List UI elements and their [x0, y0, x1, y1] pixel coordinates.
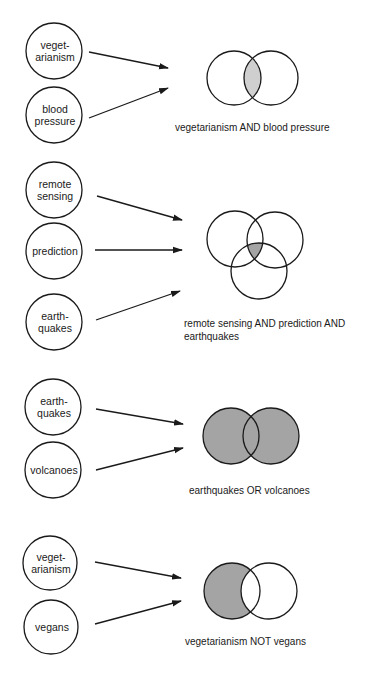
search-term-bubble: bloodpressure: [26, 87, 82, 143]
venn-group-or-2: earth-quakesvolcanoesearthquakes OR volc…: [25, 379, 310, 498]
venn-circle: [247, 212, 303, 268]
term-label: veget-: [40, 39, 70, 51]
venn-group-and-3: remotesensingpredictionearth-quakesremot…: [26, 162, 345, 350]
search-term-bubble: prediction: [26, 223, 82, 279]
arrow-icon: [89, 52, 168, 68]
venn-caption: earthquakes OR volcanoes: [189, 485, 310, 496]
term-label: vegans: [35, 621, 69, 633]
arrow-icon: [96, 448, 183, 470]
search-term-bubble: earth-quakes: [25, 379, 81, 435]
search-term-bubble: volcanoes: [25, 442, 81, 498]
term-label: pressure: [35, 115, 76, 127]
venn-group-not-2: veget-arianismvegansvegetarianism NOT ve…: [23, 536, 306, 654]
arrow-icon: [96, 291, 180, 320]
venn-caption: vegetarianism AND blood pressure: [175, 122, 330, 133]
arrow-icon: [89, 88, 168, 118]
venn-diagram-and: [207, 51, 298, 105]
venn-diagram-or: [203, 408, 299, 464]
term-label: arianism: [31, 563, 71, 575]
diagram-groups: veget-arianismbloodpressurevegetarianism…: [23, 23, 345, 654]
arrow-icon: [95, 562, 181, 578]
search-term-bubble: remotesensing: [26, 162, 82, 218]
term-label: earth-: [41, 310, 69, 322]
term-label: earth-: [40, 395, 68, 407]
venn-diagram-not: [204, 563, 297, 619]
arrow-icon: [97, 196, 182, 220]
arrow-icon: [95, 601, 181, 624]
venn-caption: earthquakes: [184, 331, 239, 342]
term-label: arianism: [35, 51, 75, 63]
venn-group-and-2: veget-arianismbloodpressurevegetarianism…: [26, 23, 330, 143]
search-term-bubble: veget-arianism: [23, 536, 77, 590]
venn-diagram-and: [207, 211, 303, 299]
boolean-venn-diagram: veget-arianismbloodpressurevegetarianism…: [0, 0, 373, 678]
search-term-bubble: veget-arianism: [26, 23, 82, 79]
term-label: remote: [39, 178, 72, 190]
term-label: quakes: [37, 407, 71, 419]
search-term-bubble: earth-quakes: [26, 294, 82, 350]
venn-caption: vegetarianism NOT vegans: [185, 636, 306, 647]
term-label: quakes: [38, 322, 72, 334]
arrow-icon: [96, 409, 183, 424]
term-label: veget-: [36, 551, 66, 563]
term-label: volcanoes: [30, 464, 77, 476]
term-label: blood: [42, 103, 68, 115]
term-label: prediction: [32, 245, 78, 257]
search-term-bubble: vegans: [24, 600, 78, 654]
term-label: sensing: [37, 190, 73, 202]
venn-caption: remote sensing AND prediction AND: [184, 318, 345, 329]
